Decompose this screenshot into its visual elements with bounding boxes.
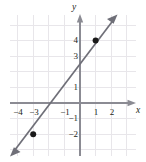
data-point-marker [30, 131, 36, 137]
x-axis-label: x [136, 106, 140, 116]
x-tick-label-2: 2 [107, 108, 117, 117]
data-point-marker [93, 38, 99, 44]
x-tick-label--4: −4 [11, 108, 25, 117]
y-tick-label-4: 4 [68, 36, 78, 45]
y-tick-label--1: −1 [62, 114, 78, 123]
line-arrowhead-lower-left [10, 147, 21, 156]
y-tick-label-3: 3 [68, 52, 78, 61]
graph-figure: −4 −3 −1 1 2 4 3 1 −1 −2 y x [0, 0, 146, 162]
y-axis-label: y [72, 3, 76, 13]
x-axis-arrowhead [128, 100, 137, 106]
line-arrowhead-upper-right [107, 15, 118, 24]
y-axis-arrowhead [77, 14, 83, 23]
y-tick-label-1: 1 [68, 83, 78, 92]
x-tick-label-1: 1 [91, 108, 101, 117]
x-tick-label--3: −3 [27, 108, 41, 117]
y-tick-label--2: −2 [62, 130, 78, 139]
